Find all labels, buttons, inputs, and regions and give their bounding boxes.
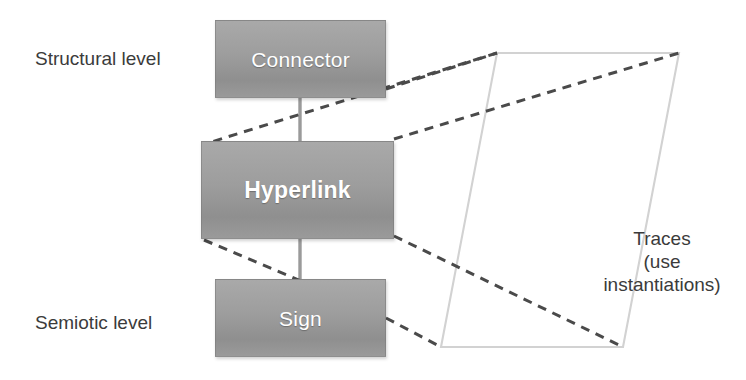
traces-caption-line-1: Traces — [578, 227, 746, 250]
node-sign[interactable]: Sign — [215, 279, 386, 357]
traces-caption-line-3: instantiations) — [578, 273, 746, 296]
node-connector[interactable]: Connector — [215, 20, 386, 98]
edge-sign-to-region-bottom-left — [386, 318, 441, 347]
node-sign-label: Sign — [279, 308, 322, 329]
traces-region-parallelogram — [441, 53, 679, 347]
traces-caption-line-2: (use — [578, 250, 746, 273]
diagram-canvas: Structural level Semiotic level Connecto… — [0, 0, 746, 380]
traces-caption: Traces (use instantiations) — [578, 227, 746, 297]
node-hyperlink[interactable]: Hyperlink — [201, 141, 394, 239]
level-label-structural: Structural level — [35, 49, 161, 68]
node-connector-label: Connector — [251, 49, 350, 70]
edge-hyperlink-to-sign-dashed — [204, 240, 301, 281]
level-label-semiotic: Semiotic level — [35, 313, 152, 332]
edge-hyperlink-to-region-top-right — [394, 53, 679, 139]
node-hyperlink-label: Hyperlink — [244, 179, 351, 202]
